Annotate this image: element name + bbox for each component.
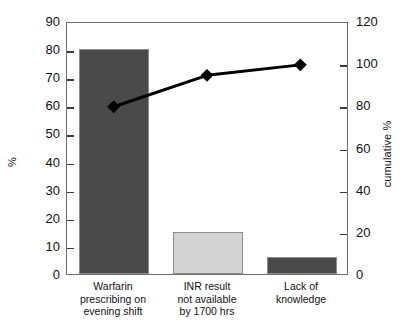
- y-tickmark-right: [340, 192, 347, 194]
- y-tickmark-left: [67, 51, 74, 53]
- y-axis-right-ticks: 020406080100120: [356, 0, 402, 334]
- category-label-line: INR result: [160, 280, 254, 293]
- footer-strip: [0, 326, 419, 334]
- category-label-line: not available: [160, 293, 254, 306]
- y-tick-label-left: 50: [26, 127, 60, 140]
- y-tickmark-right: [340, 107, 347, 109]
- y-tick-label-right: 80: [356, 99, 396, 112]
- y-tickmark-left: [67, 248, 74, 250]
- plot-area: [66, 22, 348, 275]
- y-tick-label-left: 90: [26, 15, 60, 28]
- y-tick-label-right: 100: [356, 57, 396, 70]
- category-label-line: Lack of: [254, 280, 348, 293]
- x-axis-category-label: INR resultnot availableby 1700 hrs: [160, 280, 254, 326]
- y-tickmark-left: [67, 192, 74, 194]
- plot-inner: [67, 23, 347, 274]
- y-tickmark-left: [67, 164, 74, 166]
- x-axis-category-label: Lack ofknowledge: [254, 280, 348, 326]
- y-tick-label-left: 10: [26, 240, 60, 253]
- y-tickmark-left: [67, 79, 74, 81]
- y-tickmark-right: [340, 150, 347, 152]
- y-tick-label-left: 60: [26, 99, 60, 112]
- cumulative-marker: [107, 100, 120, 113]
- category-label-line: prescribing on: [66, 293, 160, 306]
- y-tick-label-right: 120: [356, 15, 396, 28]
- y-tick-label-left: 30: [26, 184, 60, 197]
- y-tick-label-left: 40: [26, 156, 60, 169]
- y-tick-label-right: 0: [356, 268, 396, 281]
- y-tick-label-left: 20: [26, 212, 60, 225]
- category-label-line: knowledge: [254, 293, 348, 306]
- x-axis-category-label: Warfarinprescribing onevening shift: [66, 280, 160, 326]
- x-axis-category-labels: Warfarinprescribing onevening shiftINR r…: [66, 280, 348, 326]
- y-tickmark-right: [340, 65, 347, 67]
- category-label-line: by 1700 hrs: [160, 305, 254, 318]
- y-tickmark-left: [67, 135, 74, 137]
- cumulative-marker: [201, 69, 214, 82]
- y-tick-label-left: 80: [26, 43, 60, 56]
- y-axis-left-title: %: [6, 132, 18, 192]
- cumulative-line-layer: [67, 23, 347, 274]
- y-tick-label-left: 70: [26, 71, 60, 84]
- y-tickmark-right: [340, 234, 347, 236]
- cumulative-marker: [294, 58, 307, 71]
- y-tick-label-right: 40: [356, 184, 396, 197]
- y-axis-left-ticks: 0102030405060708090: [20, 0, 60, 334]
- y-tick-label-left: 0: [26, 268, 60, 281]
- category-label-line: evening shift: [66, 305, 160, 318]
- pareto-chart: % cumulative % 0102030405060708090 02040…: [0, 0, 419, 334]
- y-tickmark-left: [67, 107, 74, 109]
- y-tickmark-left: [67, 220, 74, 222]
- category-label-line: Warfarin: [66, 280, 160, 293]
- y-tick-label-right: 60: [356, 142, 396, 155]
- y-tick-label-right: 20: [356, 226, 396, 239]
